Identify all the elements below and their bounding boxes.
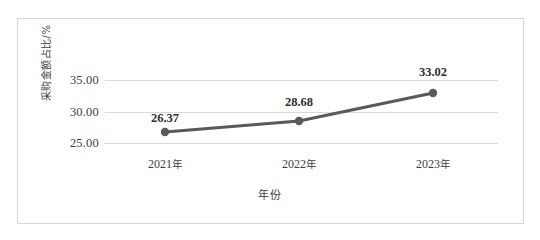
x-tick-year-2021: 2021 xyxy=(148,157,172,171)
data-label-2021: 26.37 xyxy=(125,112,205,125)
data-label-2023: 33.02 xyxy=(393,66,473,79)
x-tick-label-2022: 2022年 xyxy=(249,158,349,170)
x-axis-title: 年份 xyxy=(0,190,540,201)
x-tick-unit-2022: 年 xyxy=(306,158,316,170)
x-tick-label-2021: 2021年 xyxy=(115,158,215,170)
y-axis-title: 采购金额占比/% xyxy=(40,8,54,118)
y-tick-label-35: 35.00 xyxy=(45,74,99,87)
gridline-35 xyxy=(105,80,498,81)
y-tick-label-30: 30.00 xyxy=(45,106,99,119)
x-tick-unit-2021: 年 xyxy=(172,158,182,170)
chart-screenshot: 采购金额占比/% 35.00 30.00 25.00 26.37 28.68 3… xyxy=(0,0,540,240)
y-tick-label-25: 25.00 xyxy=(45,137,99,150)
x-tick-year-2022: 2022 xyxy=(282,157,306,171)
x-tick-year-2023: 2023 xyxy=(416,157,440,171)
data-label-2022: 28.68 xyxy=(259,96,339,109)
x-tick-label-2023: 2023年 xyxy=(383,158,483,170)
x-tick-unit-2023: 年 xyxy=(440,158,450,170)
gridline-25 xyxy=(105,143,498,144)
